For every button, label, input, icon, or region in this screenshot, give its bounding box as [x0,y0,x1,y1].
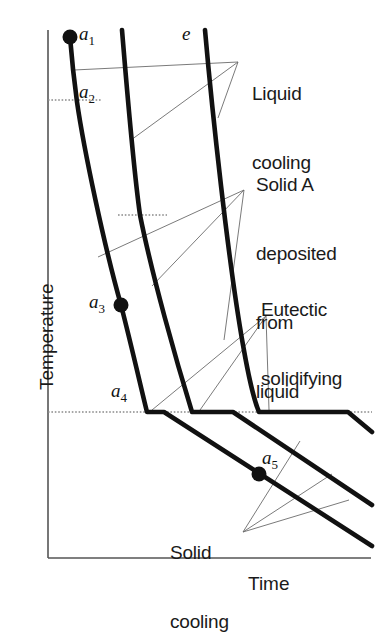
point-label-a3-sub: 3 [99,301,106,316]
point-label-a5-base: a [262,447,272,468]
y-axis-title: Temperature [36,283,58,390]
point-label-a2-sub: 2 [89,91,96,106]
x-axis-title: Time [248,573,290,595]
point-label-a1: a1 [79,23,95,49]
point-label-a4: a4 [111,380,127,406]
leader-solid-a-3 [224,190,244,340]
point-label-a2-base: a [79,81,89,102]
annotation-eutectic-line-1: Eutectic [261,298,342,321]
annotation-eutectic-solidifying: Eutectic solidifying [261,252,342,436]
annotation-eutectic-line-2: solidifying [261,367,342,390]
annotation-liquid-cooling-line-1: Liquid [252,82,311,105]
point-label-a3-base: a [89,291,99,312]
annotation-solid-cooling: Solid cooling [170,495,229,636]
point-label-a2: a2 [79,81,95,107]
point-marker-a1 [63,30,78,45]
annotation-solid-cooling-line-2: cooling [170,610,229,633]
leader-solid-cooling-2 [243,474,332,532]
point-label-a3: a3 [89,291,105,317]
annotation-solid-a-line-1: Solid A [256,173,337,196]
leader-liquid-cooling-1 [74,62,238,70]
annotation-solid-cooling-line-1: Solid [170,541,229,564]
point-label-a1-base: a [79,23,89,44]
point-label-a5-sub: 5 [272,457,279,472]
point-label-e: e [182,23,190,45]
leader-solid-cooling-3 [243,500,349,532]
leader-liquid-cooling-2 [131,62,238,140]
point-marker-a3 [114,298,129,313]
point-label-a1-sub: 1 [89,33,96,48]
leader-liquid-cooling-3 [218,62,238,118]
point-label-a4-base: a [111,380,121,401]
point-label-a4-sub: 4 [121,390,128,405]
point-label-a5: a5 [262,447,278,473]
